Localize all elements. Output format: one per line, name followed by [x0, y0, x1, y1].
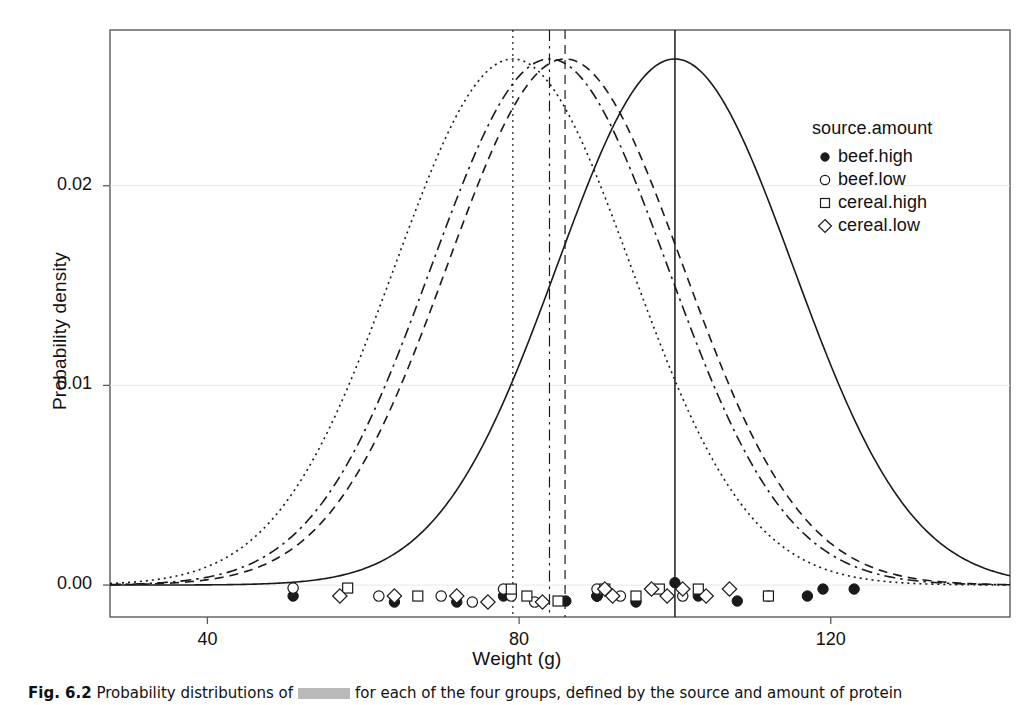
- data-point-cereal-high: [343, 583, 353, 593]
- data-point-beef-high: [849, 584, 859, 594]
- open-circle-icon: [812, 170, 838, 190]
- legend-items: beef.highbeef.lowcereal.highcereal.low: [812, 145, 1012, 237]
- x-tick-label: 120: [801, 629, 861, 650]
- density-plot-canvas: [0, 0, 1034, 705]
- filled-circle-icon: [812, 147, 838, 167]
- data-point-cereal-high: [506, 584, 516, 594]
- data-point-beef-low: [374, 591, 384, 601]
- data-point-cereal-high: [522, 591, 532, 601]
- open-square-glyph: [821, 198, 830, 207]
- caption-figure-number: Fig. 6.2: [28, 684, 92, 702]
- data-point-beef-high: [802, 591, 812, 601]
- caption-redaction: [298, 688, 350, 699]
- legend-item-cereal-low[interactable]: cereal.low: [812, 214, 1012, 237]
- legend-item-beef-high[interactable]: beef.high: [812, 145, 1012, 168]
- legend-item-beef-low[interactable]: beef.low: [812, 168, 1012, 191]
- x-tick-label: 80: [489, 629, 549, 650]
- data-point-cereal-high: [413, 591, 423, 601]
- legend-item-label: cereal.high: [838, 192, 927, 213]
- data-point-cereal-high: [631, 591, 641, 601]
- caption-rest: for each of the four groups, defined by …: [355, 684, 902, 702]
- x-tick-label: 40: [177, 629, 237, 650]
- open-circle-glyph: [820, 175, 829, 184]
- open-diamond-glyph: [819, 219, 832, 232]
- data-point-beef-low: [436, 591, 446, 601]
- data-point-cereal-high: [553, 596, 563, 606]
- x-axis-title: Weight (g): [0, 648, 1034, 670]
- y-tick-label: 0.00: [12, 573, 92, 594]
- y-axis-title: Probability density: [49, 181, 71, 481]
- figure-container: Weight (g) Probability density source.am…: [0, 0, 1034, 705]
- legend: source.amount beef.highbeef.lowcereal.hi…: [812, 118, 1012, 237]
- figure-caption: Fig. 6.2 Probability distributions of fo…: [28, 684, 1018, 702]
- y-tick-label: 0.02: [12, 174, 92, 195]
- legend-item-label: beef.high: [838, 146, 913, 167]
- legend-title: source.amount: [812, 118, 1012, 139]
- caption-text: Probability distributions of: [96, 684, 293, 702]
- data-point-beef-low: [288, 583, 298, 593]
- data-point-cereal-low: [481, 595, 495, 609]
- data-point-cereal-high: [763, 591, 773, 601]
- legend-item-label: cereal.low: [838, 215, 920, 236]
- data-point-beef-high: [732, 596, 742, 606]
- open-diamond-icon: [812, 216, 838, 236]
- data-point-cereal-low: [722, 582, 736, 596]
- legend-item-label: beef.low: [838, 169, 906, 190]
- data-point-beef-low: [467, 597, 477, 607]
- y-tick-label: 0.01: [12, 373, 92, 394]
- open-square-icon: [812, 193, 838, 213]
- data-point-beef-high: [818, 584, 828, 594]
- legend-item-cereal-high[interactable]: cereal.high: [812, 191, 1012, 214]
- filled-circle-glyph: [821, 152, 829, 160]
